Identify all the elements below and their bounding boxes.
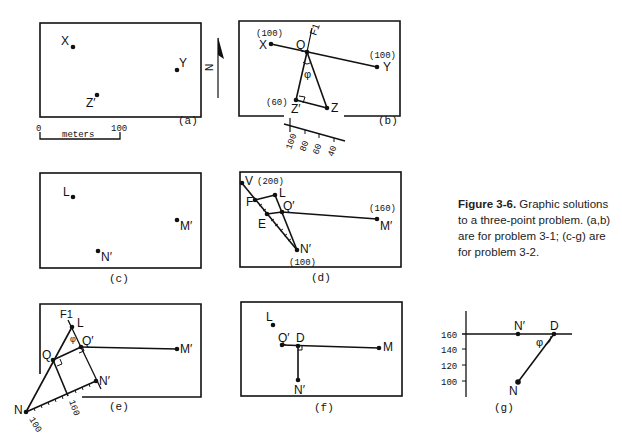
- label-x: X: [259, 38, 267, 52]
- point-x: [269, 42, 274, 47]
- label-e: E: [258, 217, 266, 231]
- point-n-prime: [96, 249, 101, 254]
- point-n-prime: [295, 248, 300, 253]
- point-e: [265, 212, 270, 217]
- label-z-prime: Z′: [291, 102, 301, 116]
- label-m-prime: M′: [380, 219, 393, 233]
- line-q-prime-m-prime: [81, 347, 177, 349]
- label-n: N: [14, 403, 23, 417]
- label-m-prime: M′: [180, 342, 193, 356]
- label-m-prime: M′: [180, 219, 193, 233]
- point-n: [24, 410, 29, 415]
- line-z-prime-z: [296, 100, 327, 108]
- tick-100: 100: [26, 416, 43, 435]
- label-n: N: [509, 384, 518, 398]
- scale-end: 100: [111, 124, 127, 134]
- angle-phi: φ: [70, 334, 76, 344]
- elev-z-prime: (60): [266, 98, 288, 108]
- angle-phi: φ: [304, 68, 311, 80]
- line-v-n-prime: [241, 182, 297, 250]
- point-x: [71, 45, 76, 50]
- line-n-l: [26, 327, 72, 412]
- label-l: L: [266, 310, 273, 324]
- label-d: D: [296, 331, 305, 345]
- label-m: M: [383, 340, 393, 354]
- label-d: D: [550, 319, 559, 333]
- label-n-prime: N′: [514, 319, 526, 333]
- label-z-prime: Z′: [86, 96, 96, 110]
- line-q-z: [307, 52, 327, 108]
- point-q: [51, 358, 56, 363]
- point-z: [325, 106, 330, 111]
- label-l: L: [279, 186, 286, 200]
- point-q: [305, 50, 310, 55]
- y-tick-140: 140: [441, 346, 457, 356]
- label-l: L: [63, 185, 70, 199]
- tick-160: 160: [66, 399, 81, 418]
- label-q-prime: Q′: [278, 331, 290, 345]
- label-v: V: [245, 174, 253, 188]
- tick-80: 80: [298, 139, 311, 153]
- label-f1: F1: [308, 22, 322, 37]
- scale-unit: meters: [62, 130, 94, 140]
- line-q-perp: [53, 360, 68, 396]
- panel-a-label: (a): [178, 115, 198, 127]
- figure-caption: Figure 3-6. Graphic solutions to a three…: [458, 196, 618, 260]
- label-q-prime: Q′: [283, 199, 295, 213]
- north-arrow: [218, 37, 224, 98]
- panel-c-label: (c): [109, 273, 129, 285]
- point-l: [273, 193, 278, 198]
- point-m-prime: [375, 217, 380, 222]
- panel-f-label: (f): [314, 402, 334, 414]
- label-z: Z: [331, 101, 338, 115]
- angle-phi: φ: [536, 336, 543, 348]
- label-y: Y: [383, 60, 391, 74]
- point-n-prime: [94, 379, 99, 384]
- tick-40: 40: [326, 144, 339, 158]
- point-n-prime: [296, 378, 301, 383]
- panel-g-label: (g): [494, 402, 514, 414]
- north-arrow-head-icon: [218, 37, 224, 59]
- line-f1: [68, 320, 101, 389]
- point-m-prime: [175, 218, 180, 223]
- point-m-prime: [175, 347, 180, 352]
- point-l: [70, 325, 75, 330]
- panel-e-label: (e): [109, 401, 129, 413]
- y-tick-100: 100: [441, 378, 457, 388]
- scale-start: 0: [36, 124, 41, 134]
- label-l: L: [77, 316, 84, 330]
- label-q: Q: [42, 348, 51, 362]
- tick-100: 100: [284, 132, 299, 151]
- y-tick-120: 120: [441, 362, 457, 372]
- label-x: X: [61, 34, 69, 48]
- label-f1: F1: [60, 308, 73, 320]
- label-n-prime: N′: [300, 242, 312, 256]
- label-n-prime: N′: [99, 374, 111, 388]
- elev-n-prime: (100): [289, 258, 316, 268]
- point-y: [375, 65, 380, 70]
- line-q-prime-m-prime: [282, 212, 377, 219]
- north-label: N: [204, 64, 215, 71]
- point-m: [377, 346, 382, 351]
- caption-label: Figure 3-6.: [458, 198, 516, 210]
- label-q-prime: Q′: [82, 334, 94, 348]
- panel-d-label: (d): [311, 272, 331, 284]
- label-y: Y: [179, 56, 187, 70]
- label-q: Q: [296, 38, 305, 52]
- panel-b-label: (b): [378, 115, 398, 127]
- line-x-y: [271, 44, 377, 67]
- line-f-l: [255, 195, 275, 200]
- elev-m-prime: (160): [369, 204, 396, 214]
- right-angle-mark: [57, 359, 62, 366]
- point-v: [240, 181, 245, 186]
- point-f: [253, 198, 258, 203]
- tick-60: 60: [311, 142, 324, 156]
- point-l: [71, 195, 76, 200]
- label-n-prime: N′: [294, 383, 306, 397]
- label-n-prime: N′: [101, 250, 113, 264]
- y-tick-160: 160: [441, 331, 457, 341]
- label-f: F: [246, 195, 253, 209]
